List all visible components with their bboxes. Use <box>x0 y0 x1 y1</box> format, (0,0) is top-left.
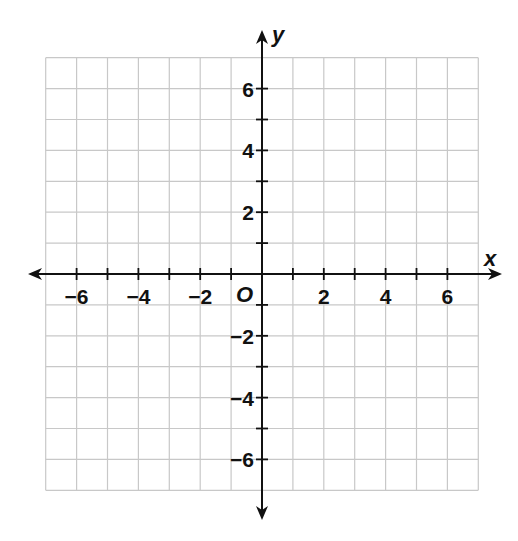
axes <box>28 30 502 520</box>
y-tick-label: −6 <box>230 448 254 471</box>
x-tick-label: −2 <box>188 285 212 308</box>
y-tick-label: −4 <box>230 387 254 410</box>
x-tick-label: 4 <box>380 285 392 308</box>
x-tick-label: −6 <box>65 285 89 308</box>
y-axis-label: y <box>271 22 286 47</box>
y-tick-label: 6 <box>242 78 254 101</box>
y-tick-label: 2 <box>242 201 254 224</box>
x-tick-label: 2 <box>318 285 330 308</box>
origin-label: O <box>236 282 253 307</box>
y-tick-label: 4 <box>242 139 254 162</box>
x-axis-label: x <box>483 246 497 271</box>
y-tick-label: −2 <box>230 325 254 348</box>
x-tick-label: −4 <box>126 285 150 308</box>
coordinate-plane: −6−4−2246642−2−4−6 x y O <box>0 0 518 541</box>
x-tick-label: 6 <box>442 285 454 308</box>
